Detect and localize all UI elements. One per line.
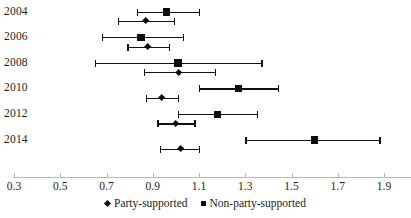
x-axis-tick [107,173,108,177]
point-marker-square [163,8,171,16]
ci-cap-lower [157,120,158,127]
x-axis-tick [14,173,15,177]
ci-cap-upper [261,60,262,67]
ci-cap-lower [199,85,200,92]
point-marker-square [174,59,182,67]
data-point-non-party-supported-2010 [0,88,411,89]
data-point-non-party-supported-2014 [0,140,411,141]
ci-cap-upper [215,69,216,76]
point-marker-square [235,85,243,93]
data-point-party-supported-2006 [0,47,411,48]
x-axis-tick-label: 1.1 [192,180,206,193]
data-point-non-party-supported-2012 [0,114,411,115]
point-marker-diamond [177,145,185,153]
forest-plot-chart: 200420062008201020122014 0.30.50.70.91.1… [0,0,411,218]
ci-cap-lower [95,60,96,67]
point-marker-square [311,136,319,144]
plot-area [0,0,411,178]
data-point-non-party-supported-2006 [0,37,411,38]
ci-cap-upper [174,18,175,25]
legend-item-non-party-supported: Non-party-supported [201,197,306,209]
legend-label: Party-supported [114,197,187,209]
ci-cap-lower [178,111,179,118]
x-axis-tick [245,173,246,177]
point-marker-diamond [142,17,150,25]
ci-cap-upper [379,137,380,144]
ci-cap-lower [144,69,145,76]
ci-cap-upper [278,85,279,92]
chart-legend: Party-supportedNon-party-supported [0,197,411,209]
ci-cap-upper [169,44,170,51]
diamond-marker-icon [104,199,111,206]
ci-cap-upper [194,120,195,127]
x-axis-tick [384,173,385,177]
x-axis-tick-label: 0.7 [99,180,113,193]
ci-cap-upper [183,34,184,41]
x-axis-tick-label: 1.5 [284,180,298,193]
x-axis-tick [60,173,61,177]
ci-cap-upper [257,111,258,118]
ci-cap-lower [102,34,103,41]
x-axis-tick-label: 0.3 [7,180,21,193]
point-marker-diamond [172,120,180,128]
ci-cap-lower [127,44,128,51]
data-point-party-supported-2010 [0,98,411,99]
ci-cap-upper [199,9,200,16]
x-axis-tick [153,173,154,177]
x-axis-tick [199,173,200,177]
x-axis-tick [292,173,293,177]
x-axis-tick-label: 1.3 [238,180,252,193]
ci-cap-upper [199,146,200,153]
data-point-party-supported-2012 [0,123,411,124]
data-point-non-party-supported-2004 [0,12,411,13]
legend-label: Non-party-supported [210,197,306,209]
point-marker-square [137,34,145,42]
ci-cap-lower [245,137,246,144]
ci-cap-lower [146,95,147,102]
data-point-non-party-supported-2008 [0,63,411,64]
data-point-party-supported-2004 [0,21,411,22]
ci-cap-lower [137,9,138,16]
ci-cap-lower [160,146,161,153]
ci-cap-lower [118,18,119,25]
x-axis-tick [338,173,339,177]
data-point-party-supported-2014 [0,149,411,150]
legend-item-party-supported: Party-supported [105,197,187,209]
x-axis-tick-label: 1.9 [377,180,391,193]
x-axis-tick-label: 0.9 [146,180,160,193]
point-marker-diamond [158,94,166,102]
x-axis-tick-label: 1.7 [331,180,345,193]
data-point-party-supported-2008 [0,72,411,73]
point-marker-square [214,111,222,119]
point-marker-diamond [144,43,152,51]
x-axis-line [13,177,411,178]
square-marker-icon [201,201,206,206]
point-marker-diamond [174,68,182,76]
x-axis-tick-label: 0.5 [53,180,67,193]
ci-cap-upper [178,95,179,102]
